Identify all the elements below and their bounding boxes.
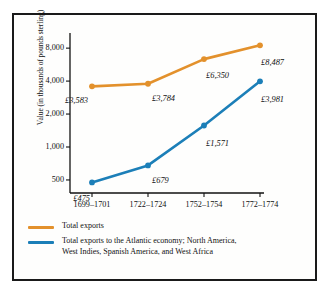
x-tick-label: 1772–1774	[230, 200, 290, 209]
data-point-marker	[145, 81, 151, 87]
series-line	[92, 81, 260, 182]
legend-label-atlantic-economy-line1: Total exports to the Atlantic economy; N…	[62, 236, 313, 247]
data-point-label: £679	[152, 176, 169, 185]
y-tick-label: 500	[22, 175, 64, 184]
y-tick-label: 1,000	[22, 142, 64, 151]
legend-item-total-exports: Total exports	[28, 221, 313, 234]
x-tick-label: 1752–1754	[174, 200, 234, 209]
data-point-label: £8,487	[261, 58, 284, 67]
data-point-marker	[89, 83, 95, 89]
x-tick-label: 1722–1724	[118, 200, 178, 209]
chart-series-layer	[89, 42, 263, 185]
data-point-label: £3,583	[14, 96, 88, 105]
chart-legend: Total exports Total exports to the Atlan…	[28, 221, 313, 259]
y-tick-label: 2,000	[22, 109, 64, 118]
y-tick-label: 8,000	[22, 43, 64, 52]
data-point-marker	[201, 123, 207, 129]
data-point-label: £6,350	[206, 71, 229, 80]
legend-swatch-blue	[28, 241, 54, 244]
legend-item-atlantic-economy: Total exports to the Atlantic economy; N…	[28, 236, 313, 257]
data-point-marker	[257, 42, 263, 48]
data-point-marker	[201, 56, 207, 62]
data-point-label: £1,571	[206, 139, 229, 148]
data-point-label: £3,784	[152, 94, 175, 103]
chart-figure: Value (in thousands of pounds sterling) …	[12, 13, 317, 281]
series-line	[92, 45, 260, 86]
legend-swatch-orange	[28, 226, 54, 229]
data-point-marker	[257, 78, 263, 84]
data-point-marker	[89, 179, 95, 185]
y-tick-label: 4,000	[22, 76, 64, 85]
data-point-label: £475	[14, 194, 90, 203]
legend-label-atlantic-economy-line2: West Indies, Spanish America, and West A…	[62, 247, 313, 258]
legend-label-total-exports: Total exports	[62, 221, 313, 232]
data-point-marker	[145, 163, 151, 169]
chart-axes	[70, 33, 264, 193]
data-point-label: £3,981	[261, 95, 284, 104]
